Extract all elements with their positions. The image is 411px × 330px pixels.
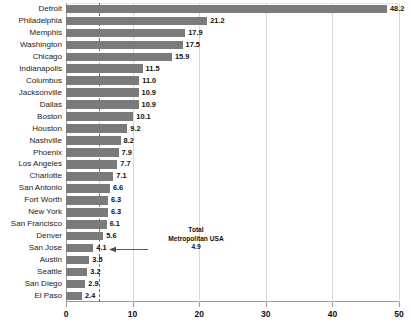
bar-row: Dallas10.9 [0, 99, 411, 111]
bar [66, 124, 127, 133]
x-axis-tick [133, 302, 134, 307]
bar [66, 184, 110, 193]
bar-row: Memphis17.9 [0, 27, 411, 39]
annotation-total-metro: Total Metropolitan USA 4.9 [148, 226, 244, 252]
bar-value-label: 6.3 [111, 206, 121, 218]
category-label: Detroit [0, 3, 62, 15]
bar [66, 5, 387, 14]
x-axis-tick-label: 40 [312, 309, 352, 319]
bar-value-label: 10.1 [136, 111, 150, 123]
bar [66, 148, 119, 157]
bar-row: Indianapolis11.5 [0, 63, 411, 75]
bar [66, 232, 103, 241]
category-label: Jacksonville [0, 87, 62, 99]
bar-value-label: 2.9 [88, 278, 98, 290]
bar-value-label: 17.5 [186, 39, 200, 51]
bar [66, 196, 108, 205]
bar-row: Charlotte7.1 [0, 170, 411, 182]
bar-value-label: 4.1 [96, 242, 106, 254]
bar-value-label: 7.9 [122, 147, 132, 159]
x-axis-tick-label: 20 [179, 309, 219, 319]
bar-row: Philadelphia21.2 [0, 15, 411, 27]
bar-value-label: 17.9 [188, 27, 202, 39]
bar [66, 41, 183, 50]
bar [66, 292, 82, 301]
bar-value-label: 3.5 [92, 254, 102, 266]
bar-rows: Detroit48.2Philadelphia21.2Memphis17.9Wa… [0, 3, 411, 302]
category-label: Columbus [0, 75, 62, 87]
category-label: Washington [0, 39, 62, 51]
category-label: Dallas [0, 99, 62, 111]
bar [66, 136, 121, 145]
category-label: Los Angeles [0, 158, 62, 170]
bar-value-label: 3.2 [90, 266, 100, 278]
bar-value-label: 10.9 [142, 87, 156, 99]
bar-row: Phoenix7.9 [0, 147, 411, 159]
category-label: Charlotte [0, 170, 62, 182]
bar-value-label: 11.0 [142, 75, 156, 87]
category-label: San Diego [0, 278, 62, 290]
bar [66, 112, 133, 121]
bar-row: Jacksonville10.9 [0, 87, 411, 99]
bar-value-label: 48.2 [390, 3, 404, 15]
bar-row: Houston9.2 [0, 123, 411, 135]
bar [66, 100, 139, 109]
bar-row: Columbus11.0 [0, 75, 411, 87]
category-label: Chicago [0, 51, 62, 63]
bar-value-label: 11.5 [146, 63, 160, 75]
bar [66, 220, 107, 229]
annotation-arrow-icon [108, 246, 148, 253]
category-label: Fort Worth [0, 194, 62, 206]
bar-value-label: 21.2 [210, 15, 224, 27]
bar [66, 172, 113, 181]
x-axis-tick-label: 10 [113, 309, 153, 319]
bar [66, 244, 93, 253]
bar [66, 76, 139, 85]
category-label: Boston [0, 111, 62, 123]
category-label: New York [0, 206, 62, 218]
x-axis-tick [266, 302, 267, 307]
bar-row: San Diego2.9 [0, 278, 411, 290]
bar-row: El Paso2.4 [0, 290, 411, 302]
bar-value-label: 6.3 [111, 194, 121, 206]
category-label: Indianapolis [0, 63, 62, 75]
bar-value-label: 10.9 [142, 99, 156, 111]
category-label: Denver [0, 230, 62, 242]
bar [66, 160, 117, 169]
bar-value-label: 15.9 [175, 51, 189, 63]
x-axis-tick-label: 30 [246, 309, 286, 319]
bar [66, 256, 89, 265]
bar-row: Fort Worth6.3 [0, 194, 411, 206]
bar [66, 208, 108, 217]
x-axis-tick [399, 302, 400, 307]
category-label: Phoenix [0, 147, 62, 159]
bar-row: Boston10.1 [0, 111, 411, 123]
bar [66, 64, 143, 73]
bar-row: Nashville8.2 [0, 135, 411, 147]
bar-chart: Detroit48.2Philadelphia21.2Memphis17.9Wa… [0, 0, 411, 330]
x-axis-tick [332, 302, 333, 307]
bar-value-label: 2.4 [85, 290, 95, 302]
bar [66, 17, 207, 26]
bar-row: San Antonio6.6 [0, 182, 411, 194]
bar-row: Chicago15.9 [0, 51, 411, 63]
bar-row: Seattle3.2 [0, 266, 411, 278]
category-label: Memphis [0, 27, 62, 39]
category-label: San Antonio [0, 182, 62, 194]
bar [66, 29, 185, 38]
category-label: Houston [0, 123, 62, 135]
bar [66, 280, 85, 289]
x-axis-tick [66, 302, 67, 307]
bar [66, 88, 139, 97]
bar-value-label: 7.1 [116, 170, 126, 182]
bar-value-label: 9.2 [130, 123, 140, 135]
bar [66, 268, 87, 277]
annotation-line-3: 4.9 [148, 243, 244, 252]
bar [66, 53, 172, 62]
bar-row: New York6.3 [0, 206, 411, 218]
category-label: Philadelphia [0, 15, 62, 27]
annotation-line-2: Metropolitan USA [148, 235, 244, 244]
bar-value-label: 6.6 [113, 182, 123, 194]
bar-value-label: 5.6 [106, 230, 116, 242]
bar-value-label: 8.2 [124, 135, 134, 147]
